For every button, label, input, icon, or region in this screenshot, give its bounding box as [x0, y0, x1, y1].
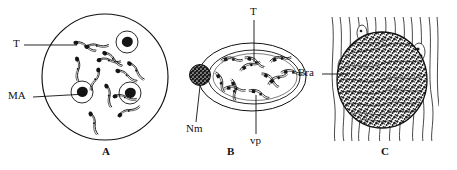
panel-a-field-circle	[42, 14, 168, 140]
panel-b	[190, 20, 307, 134]
label-panel-a-t: T	[13, 38, 20, 49]
panel-a-host-cell	[71, 81, 93, 103]
label-panel-a-ma: MA	[8, 90, 26, 101]
panel-b-host-nucleus	[190, 65, 211, 86]
panel-letter-b: B	[227, 146, 235, 157]
label-panel-b-vp: vp	[250, 135, 261, 146]
figure-plate: T MA A T Nm vp B Bra C	[0, 0, 457, 170]
panel-a-host-cell	[119, 82, 141, 104]
panel-letter-c: C	[381, 146, 389, 157]
panel-a-host-cell	[116, 31, 138, 53]
panel-c	[327, 16, 439, 142]
label-panel-b-t: T	[250, 6, 257, 17]
panel-c-parasite-mass	[337, 32, 427, 128]
label-panel-c-bra: Bra	[298, 67, 314, 78]
panel-b-leader-nm	[196, 86, 200, 122]
panel-letter-a: A	[102, 146, 110, 157]
panel-a	[24, 14, 168, 140]
label-panel-b-nm: Nm	[186, 123, 203, 134]
